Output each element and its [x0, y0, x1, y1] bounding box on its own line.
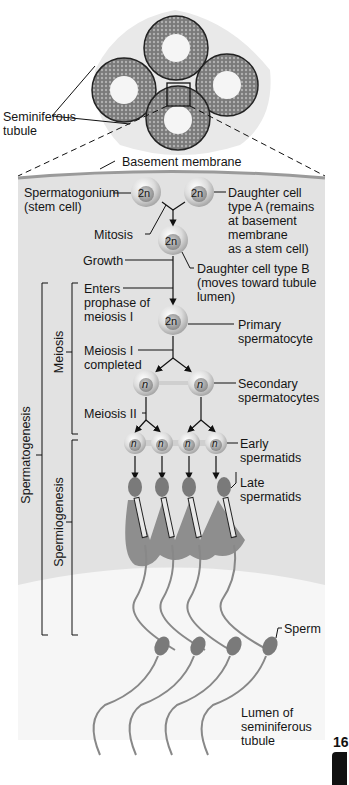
tubule-top [144, 16, 208, 80]
daughter-cell-a-label: Daughter cell type A (remains at basemen… [228, 186, 314, 256]
meiosis-bracket-label: Meiosis [52, 322, 66, 382]
cell-ploidy-early-1: n [131, 437, 137, 451]
meiosis-i-completed-label: Meiosis I completed [84, 344, 142, 372]
cell-ploidy-spermatogonium: 2n [138, 186, 150, 200]
tubule-bottom [146, 86, 210, 150]
page-tab [332, 752, 347, 785]
cell-ploidy-secondary-1: n [142, 377, 148, 391]
daughter-cell-b-label: Daughter cell type B (moves toward tubul… [197, 262, 317, 304]
cell-ploidy-early-3: n [185, 437, 191, 451]
spermiogenesis-bracket-label: Spermiogenesis [52, 472, 66, 572]
spermatogenesis-bracket-label: Spermatogenesis [19, 405, 33, 505]
cell-ploidy-early-2: n [158, 437, 164, 451]
seminiferous-tubule-label: Seminiferous tubule [3, 110, 76, 138]
cell-ploidy-daughter-a: 2n [191, 186, 203, 200]
growth-label: Growth [83, 254, 123, 268]
enters-prophase-label: Enters prophase of meiosis I [84, 282, 150, 324]
lumen-label: Lumen of seminiferous tubule [241, 706, 312, 748]
cell-ploidy-early-4: n [212, 437, 218, 451]
meiosis-ii-label: Meiosis II [84, 407, 137, 421]
cell-ploidy-primary: 2n [165, 314, 177, 328]
spermatogonium-label: Spermatogonium (stem cell) [24, 186, 119, 214]
early-spermatids-label: Early spermatids [240, 437, 301, 465]
primary-spermatocyte-label: Primary spermatocyte [238, 318, 313, 346]
page-tab-number: 16 [333, 734, 349, 750]
mitosis-label: Mitosis [94, 228, 133, 242]
secondary-spermatocytes-label: Secondary spermatocytes [238, 377, 319, 405]
cell-ploidy-secondary-2: n [197, 377, 203, 391]
late-spermatids-label: Late spermatids [240, 476, 301, 504]
sperm-label: Sperm [284, 622, 321, 636]
basement-membrane-label: Basement membrane [122, 155, 242, 169]
cell-ploidy-daughter-b: 2n [165, 234, 177, 248]
